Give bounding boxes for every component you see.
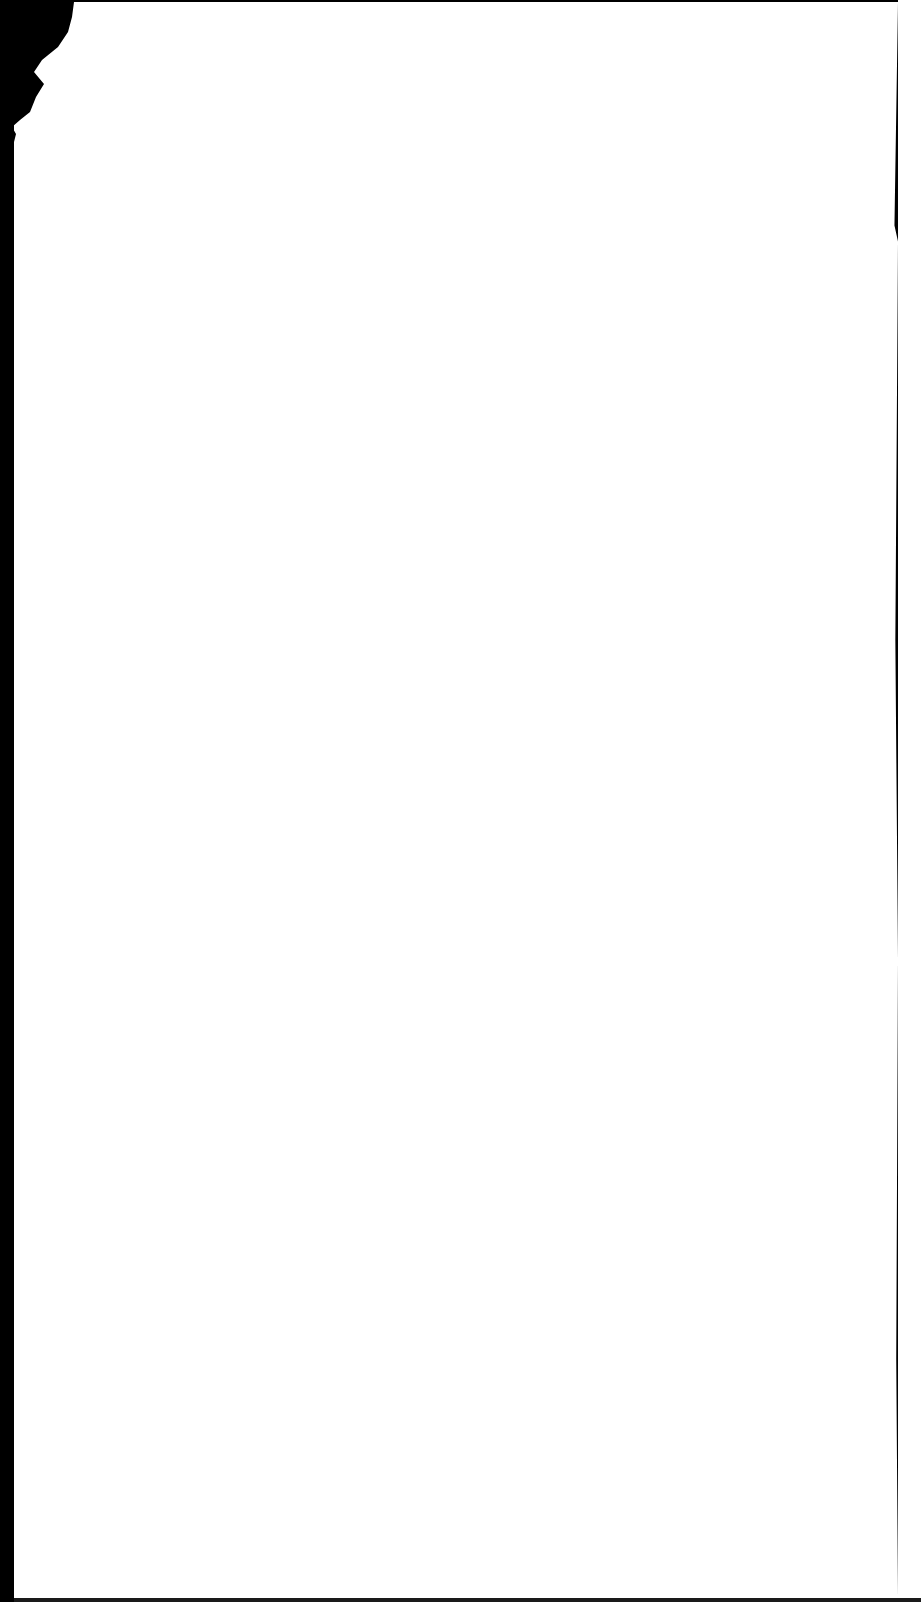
- blank-scanned-page: [14, 2, 898, 1598]
- scan-margin-right: [898, 0, 921, 1602]
- scan-bottom-edge: [14, 1598, 921, 1602]
